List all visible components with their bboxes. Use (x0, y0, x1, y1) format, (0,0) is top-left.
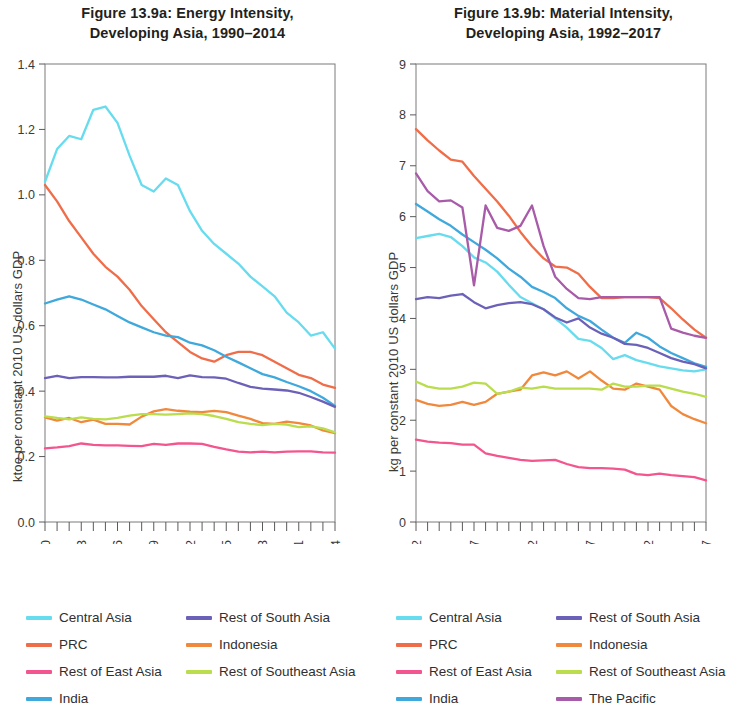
legend-label: Rest of South Asia (219, 611, 330, 625)
legend-swatch-icon (26, 697, 52, 701)
svg-text:2014: 2014 (329, 540, 343, 544)
panel-material-intensity: Figure 13.9b: Material Intensity, Develo… (376, 0, 751, 714)
legend-item-india[interactable]: India (396, 692, 556, 706)
legend-label: India (429, 692, 458, 706)
chart-a: 0.00.20.40.60.81.01.21.41990199319961999… (0, 52, 375, 544)
svg-text:1992: 1992 (410, 540, 424, 544)
legend-swatch-icon (556, 697, 582, 701)
legend-swatch-icon (556, 670, 582, 674)
legend-item-rest-of-southeast-asia[interactable]: Rest of Southeast Asia (556, 665, 746, 679)
legend-swatch-icon (556, 616, 582, 620)
svg-text:0.6: 0.6 (18, 319, 35, 333)
figure-title-b: Figure 13.9b: Material Intensity, Develo… (376, 4, 751, 43)
legend-label: Central Asia (59, 611, 132, 625)
svg-text:0: 0 (399, 516, 406, 530)
legend-item-rest-of-east-asia[interactable]: Rest of East Asia (26, 665, 186, 679)
legend-swatch-icon (26, 643, 52, 647)
figure-title-a: Figure 13.9a: Energy Intensity, Developi… (0, 4, 375, 43)
svg-text:6: 6 (399, 210, 406, 224)
legend-swatch-icon (26, 670, 52, 674)
legend-swatch-icon (396, 643, 422, 647)
svg-text:1996: 1996 (111, 540, 125, 544)
svg-text:5: 5 (399, 261, 406, 275)
legend-item-india[interactable]: India (26, 692, 186, 706)
chart-b: 0123456789199219972002200720122017 (376, 52, 751, 544)
panel-energy-intensity: Figure 13.9a: Energy Intensity, Developi… (0, 0, 375, 714)
legend-item-rest-of-east-asia[interactable]: Rest of East Asia (396, 665, 556, 679)
legend-label: Rest of Southeast Asia (219, 665, 356, 679)
svg-text:7: 7 (399, 159, 406, 173)
legend-swatch-icon (186, 643, 212, 647)
svg-text:2007: 2007 (584, 540, 598, 544)
svg-text:2011: 2011 (292, 540, 306, 544)
legend-label: PRC (429, 638, 458, 652)
svg-text:3: 3 (399, 363, 406, 377)
legend-label: Rest of East Asia (429, 665, 532, 679)
svg-text:1999: 1999 (147, 540, 161, 544)
legend-b: Central AsiaRest of South AsiaPRCIndones… (396, 604, 746, 712)
svg-text:2017: 2017 (700, 540, 714, 544)
legend-item-indonesia[interactable]: Indonesia (556, 638, 746, 652)
legend-item-rest-of-southeast-asia[interactable]: Rest of Southeast Asia (186, 665, 376, 679)
figure-title-b-line2: Developing Asia, 1992–2017 (376, 24, 751, 44)
legend-item-central-asia[interactable]: Central Asia (396, 611, 556, 625)
legend-label: India (59, 692, 88, 706)
svg-text:1990: 1990 (39, 540, 53, 544)
legend-label: Rest of Southeast Asia (589, 665, 726, 679)
legend-item-the-pacific[interactable]: The Pacific (556, 692, 746, 706)
figure-title-a-line1: Figure 13.9a: Energy Intensity, (81, 5, 293, 21)
legend-swatch-icon (186, 670, 212, 674)
figure-title-a-line2: Developing Asia, 1990–2014 (0, 24, 375, 44)
svg-text:4: 4 (399, 312, 406, 326)
legend-label: Indonesia (219, 638, 278, 652)
legend-swatch-icon (26, 616, 52, 620)
legend-swatch-icon (396, 616, 422, 620)
svg-text:8: 8 (399, 108, 406, 122)
plot-area-b: kg per constant 2010 US dollars GDP 0123… (376, 52, 751, 544)
legend-label: PRC (59, 638, 88, 652)
plot-area-a: ktoe per constant 2010 US dollars GDP 0.… (0, 52, 375, 544)
legend-swatch-icon (396, 697, 422, 701)
svg-text:9: 9 (399, 58, 406, 72)
legend-item-central-asia[interactable]: Central Asia (26, 611, 186, 625)
legend-item-rest-of-south-asia[interactable]: Rest of South Asia (186, 611, 376, 625)
legend-label: Central Asia (429, 611, 502, 625)
figure-page: Figure 13.9a: Energy Intensity, Developi… (0, 0, 751, 714)
svg-text:1.4: 1.4 (18, 58, 35, 72)
legend-label: Rest of East Asia (59, 665, 162, 679)
svg-text:2005: 2005 (220, 540, 234, 544)
legend-item-rest-of-south-asia[interactable]: Rest of South Asia (556, 611, 746, 625)
svg-text:0.8: 0.8 (18, 254, 35, 268)
svg-text:1: 1 (399, 465, 406, 479)
svg-text:0.2: 0.2 (18, 450, 35, 464)
svg-text:2: 2 (399, 414, 406, 428)
legend-item-indonesia[interactable]: Indonesia (186, 638, 376, 652)
svg-text:2002: 2002 (526, 540, 540, 544)
legend-label: Rest of South Asia (589, 611, 700, 625)
legend-item-prc[interactable]: PRC (396, 638, 556, 652)
svg-text:2008: 2008 (256, 540, 270, 544)
svg-text:2002: 2002 (184, 540, 198, 544)
legend-swatch-icon (556, 643, 582, 647)
legend-a: Central AsiaRest of South AsiaPRCIndones… (26, 604, 376, 712)
figure-title-b-line1: Figure 13.9b: Material Intensity, (454, 5, 673, 21)
legend-item-prc[interactable]: PRC (26, 638, 186, 652)
svg-text:1997: 1997 (468, 540, 482, 544)
legend-swatch-icon (186, 616, 212, 620)
svg-text:1.0: 1.0 (18, 188, 35, 202)
legend-label: The Pacific (589, 692, 656, 706)
svg-text:1.2: 1.2 (18, 123, 35, 137)
svg-text:0.4: 0.4 (18, 385, 35, 399)
svg-text:1993: 1993 (75, 540, 89, 544)
svg-text:0.0: 0.0 (18, 516, 35, 530)
legend-swatch-icon (396, 670, 422, 674)
legend-label: Indonesia (589, 638, 648, 652)
svg-text:2012: 2012 (642, 540, 656, 544)
